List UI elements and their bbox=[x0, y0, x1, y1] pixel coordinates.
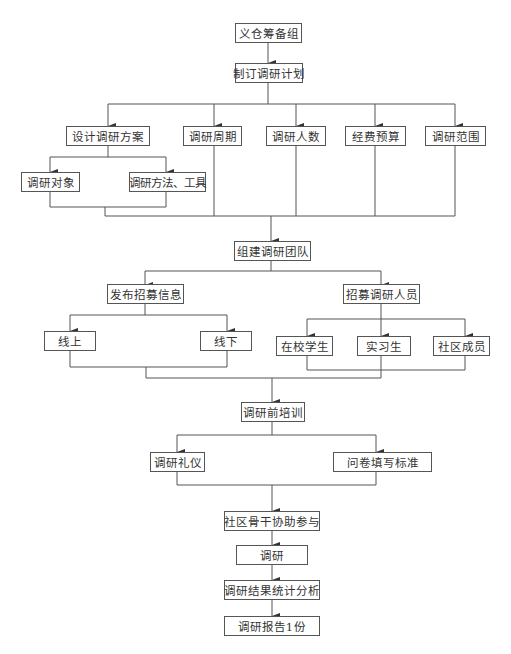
node-label: 调研前培训 bbox=[243, 404, 303, 420]
node-label: 招募调研人员 bbox=[346, 286, 418, 302]
node-interns: 实习生 bbox=[357, 336, 411, 356]
node-label: 义仓筹备组 bbox=[239, 25, 299, 41]
node-research-cycle: 调研周期 bbox=[183, 126, 242, 146]
node-design-research-scheme: 设计调研方案 bbox=[66, 126, 150, 146]
node-label: 调研报告1份 bbox=[238, 618, 306, 634]
node-build-research-team: 组建调研团队 bbox=[234, 241, 311, 261]
node-make-research-plan: 制订调研计划 bbox=[235, 63, 303, 83]
node-label: 实习生 bbox=[366, 338, 402, 354]
node-research-target: 调研对象 bbox=[21, 172, 80, 192]
node-label: 组建调研团队 bbox=[237, 243, 309, 259]
node-community-backbone-assist: 社区骨干协助参与 bbox=[224, 511, 320, 531]
node-yicang-prep-group: 义仓筹备组 bbox=[235, 23, 302, 43]
node-label: 线下 bbox=[214, 333, 238, 349]
node-publish-recruit-info: 发布招募信息 bbox=[107, 284, 184, 304]
node-label: 调研礼仪 bbox=[154, 454, 202, 470]
node-label: 线上 bbox=[58, 333, 82, 349]
node-label: 社区骨干协助参与 bbox=[224, 513, 320, 529]
node-research-scope: 调研范围 bbox=[425, 126, 486, 146]
node-recruit-researchers: 招募调研人员 bbox=[343, 284, 420, 304]
node-label: 发布招募信息 bbox=[110, 286, 182, 302]
node-community-members: 社区成员 bbox=[433, 336, 490, 356]
node-label: 调研结果统计分析 bbox=[224, 582, 320, 598]
node-label: 制订调研计划 bbox=[233, 65, 305, 81]
node-label: 问卷填写标准 bbox=[347, 454, 419, 470]
node-label: 调研对象 bbox=[27, 174, 75, 190]
node-research-headcount: 调研人数 bbox=[266, 126, 326, 146]
node-research-report: 调研报告1份 bbox=[224, 616, 320, 636]
node-label: 调研范围 bbox=[432, 128, 480, 144]
node-result-analysis: 调研结果统计分析 bbox=[224, 580, 320, 600]
node-label: 社区成员 bbox=[438, 338, 486, 354]
node-label: 调研人数 bbox=[272, 128, 320, 144]
node-questionnaire-standard: 问卷填写标准 bbox=[333, 452, 432, 472]
node-research-methods-tools: 调研方法、工具 bbox=[129, 172, 206, 192]
node-research: 调研 bbox=[236, 545, 308, 565]
node-students: 在校学生 bbox=[276, 336, 333, 356]
node-research-etiquette: 调研礼仪 bbox=[150, 452, 205, 472]
node-label: 在校学生 bbox=[281, 338, 329, 354]
node-budget: 经费预算 bbox=[345, 126, 406, 146]
node-label: 调研周期 bbox=[189, 128, 237, 144]
node-label: 调研 bbox=[260, 547, 284, 563]
node-label: 设计调研方案 bbox=[72, 128, 144, 144]
node-online: 线上 bbox=[44, 331, 96, 351]
node-pre-research-training: 调研前培训 bbox=[241, 402, 305, 422]
node-label: 调研方法、工具 bbox=[129, 174, 206, 190]
node-offline: 线下 bbox=[200, 331, 252, 351]
node-label: 经费预算 bbox=[352, 128, 400, 144]
